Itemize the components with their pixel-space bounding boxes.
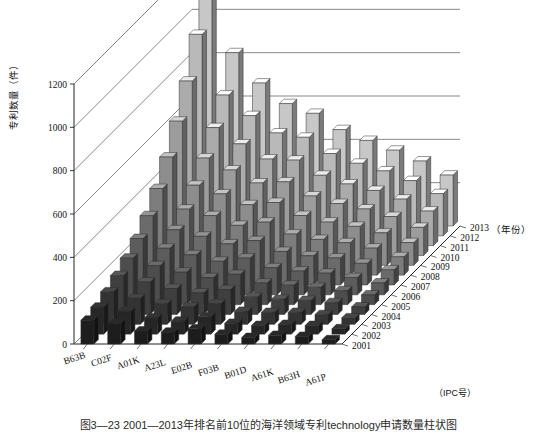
z-axis-tick bbox=[431, 256, 437, 258]
x-tick-label: A61K bbox=[249, 367, 274, 384]
chart-canvas: 020040060080010001200B63BC02FA01KA23LE02… bbox=[0, 0, 537, 434]
bar-front-face bbox=[161, 332, 174, 344]
x-tick-label: A23L bbox=[143, 357, 167, 373]
y-tick-label: 200 bbox=[53, 296, 68, 306]
z-tick-label: 2010 bbox=[441, 253, 460, 263]
z-axis-tick bbox=[342, 344, 348, 346]
bar-front-face bbox=[135, 331, 148, 344]
x-axis-tick bbox=[271, 344, 275, 349]
bar-side-face bbox=[424, 223, 428, 256]
x-tick-label: B63B bbox=[62, 350, 86, 366]
bar-front-face bbox=[342, 318, 355, 325]
bar-side-face bbox=[94, 316, 98, 344]
grid-line-depth bbox=[74, 0, 192, 84]
x-axis-tick bbox=[164, 344, 168, 349]
x-tick-label: F03B bbox=[197, 362, 220, 378]
z-tick-label: 2001 bbox=[352, 341, 371, 351]
z-tick-label: 2004 bbox=[382, 312, 401, 322]
z-axis-tick bbox=[372, 315, 378, 317]
x-tick-label: B01D bbox=[223, 364, 248, 381]
y-axis-title: 专利数量（件） bbox=[6, 40, 20, 150]
bar-front-face bbox=[242, 338, 255, 345]
z-axis-title: （年份） bbox=[491, 222, 531, 236]
x-axis-tick bbox=[191, 344, 195, 349]
x-axis-tick bbox=[83, 344, 87, 349]
bar-side-face bbox=[433, 207, 437, 246]
z-axis-tick bbox=[381, 305, 387, 307]
z-tick-label: 2013 bbox=[470, 223, 489, 233]
x-tick-label: A01K bbox=[115, 355, 140, 372]
x-tick-label: A61P bbox=[304, 372, 328, 388]
figure-caption: 图3—23 2001—2013年排名前10位的海洋领域专利technology申… bbox=[0, 416, 537, 432]
z-tick-label: 2012 bbox=[460, 233, 479, 243]
z-tick-label: 2002 bbox=[362, 331, 381, 341]
x-axis-tick bbox=[217, 344, 221, 349]
x-tick-label: C02F bbox=[90, 353, 113, 369]
bar-front-face bbox=[188, 329, 201, 344]
x-axis-tick bbox=[244, 344, 248, 349]
x-axis-tick bbox=[110, 344, 114, 349]
z-axis-tick bbox=[450, 236, 456, 238]
z-tick-label: 2009 bbox=[431, 262, 450, 272]
z-tick-label: 2007 bbox=[411, 282, 430, 292]
y-tick-label: 0 bbox=[62, 340, 67, 350]
bar-side-face bbox=[231, 285, 235, 314]
bar-front-face bbox=[295, 336, 308, 344]
y-tick-label: 800 bbox=[53, 166, 68, 176]
bar-front-face bbox=[332, 329, 345, 334]
z-tick-label: 2011 bbox=[450, 243, 469, 253]
bar-front-face bbox=[108, 323, 121, 344]
x-axis-tick bbox=[137, 344, 141, 349]
z-axis-tick bbox=[362, 324, 368, 326]
z-axis-tick bbox=[440, 246, 446, 248]
z-axis-tick bbox=[411, 275, 417, 277]
bar-front-face bbox=[215, 334, 228, 344]
y-tick-label: 1200 bbox=[48, 80, 67, 90]
x-axis-tick bbox=[298, 344, 302, 349]
figure-3d-bar-chart: 020040060080010001200B63BC02FA01KA23LE02… bbox=[0, 0, 537, 434]
z-axis-tick bbox=[421, 265, 427, 267]
z-tick-label: 2003 bbox=[372, 321, 391, 331]
z-tick-label: 2008 bbox=[421, 272, 440, 282]
bar-side-face bbox=[453, 171, 457, 226]
x-axis-tick bbox=[325, 344, 329, 349]
bar-side-face bbox=[443, 189, 447, 236]
z-tick-label: 2006 bbox=[401, 292, 420, 302]
x-tick-label: E02B bbox=[170, 360, 194, 376]
z-tick-label: 2005 bbox=[391, 302, 410, 312]
x-axis-title: （IPC号） bbox=[434, 386, 476, 399]
y-tick-label: 600 bbox=[53, 210, 68, 220]
y-tick-label: 1000 bbox=[48, 123, 67, 133]
z-axis-tick bbox=[401, 285, 407, 287]
z-axis-tick bbox=[391, 295, 397, 297]
y-tick-label: 400 bbox=[53, 253, 68, 263]
x-tick-label: B63H bbox=[277, 369, 302, 386]
bar-front-face bbox=[81, 320, 94, 344]
bar-front-face bbox=[269, 335, 282, 344]
bar-front-face bbox=[322, 340, 335, 344]
z-axis-tick bbox=[352, 334, 358, 336]
grid-line-depth bbox=[74, 9, 192, 127]
z-axis-tick bbox=[460, 226, 466, 228]
